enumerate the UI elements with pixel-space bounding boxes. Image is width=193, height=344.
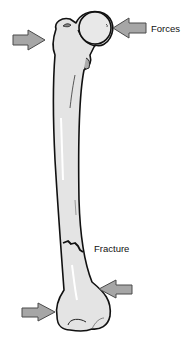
femur-bone <box>53 11 113 331</box>
forces-label: Forces <box>151 23 180 34</box>
fracture-label: Fracture <box>94 243 129 254</box>
femur-diagram <box>0 0 193 344</box>
force-arrow-bottom-left <box>22 303 55 321</box>
force-arrow-top-left <box>13 30 45 50</box>
force-arrow-top-right <box>113 18 146 38</box>
